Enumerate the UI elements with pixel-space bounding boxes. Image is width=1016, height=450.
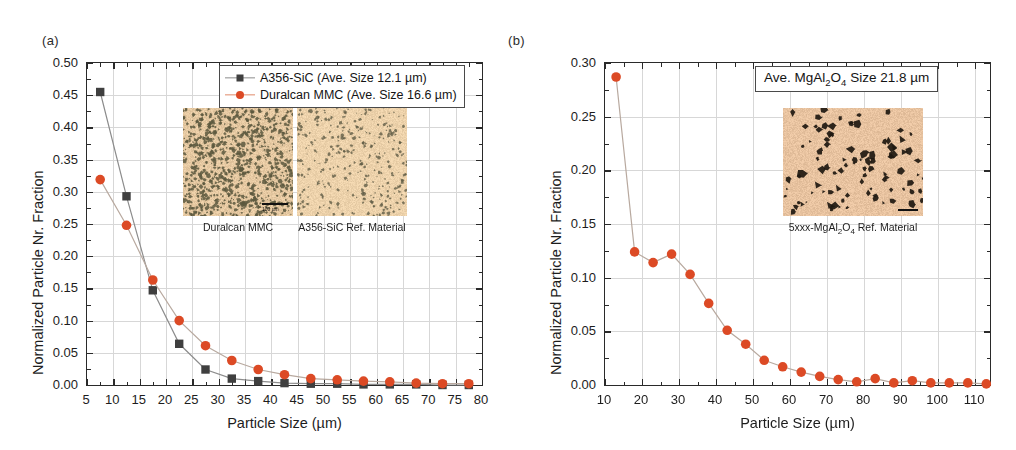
x-tick-label: 60 (782, 392, 796, 407)
x-tick-label: 10 (597, 392, 611, 407)
y-tick-label: 0.45 (34, 87, 78, 102)
data-point-circle[interactable] (982, 379, 992, 389)
data-point-square[interactable] (96, 88, 104, 96)
data-point-square[interactable] (201, 365, 209, 373)
data-point-circle[interactable] (889, 378, 899, 388)
data-point-square[interactable] (122, 192, 130, 200)
data-point-circle[interactable] (759, 356, 769, 366)
panel-a-label: (a) (42, 33, 59, 48)
data-point-circle[interactable] (385, 377, 395, 387)
data-point-square[interactable] (254, 377, 262, 385)
y-tick-label: 0.25 (34, 216, 78, 231)
x-tick-label: 5 (82, 392, 89, 407)
data-point-circle[interactable] (685, 270, 695, 280)
series-line (100, 92, 469, 385)
x-tick-label: 40 (708, 392, 722, 407)
y-tick-label: 0.10 (552, 269, 596, 284)
data-point-circle[interactable] (870, 374, 880, 384)
data-point-circle[interactable] (833, 375, 843, 385)
data-point-circle[interactable] (648, 258, 658, 268)
data-point-circle[interactable] (908, 376, 918, 386)
data-point-circle[interactable] (963, 378, 973, 388)
legend-row-duralcan[interactable]: Duralcan MMC (Ave. Size 16.6 µm) (225, 86, 457, 103)
y-tick-label: 0.50 (34, 55, 78, 70)
panel-a-legend: A356-SiC (Ave. Size 12.1 µm) Duralcan MM… (219, 65, 465, 108)
data-point-circle[interactable] (174, 316, 184, 326)
data-point-square[interactable] (280, 379, 288, 387)
data-point-circle[interactable] (464, 379, 474, 389)
x-tick-label: 75 (447, 392, 461, 407)
x-tick-label: 40 (263, 392, 277, 407)
panel-a-series-layer (87, 63, 484, 387)
data-point-circle[interactable] (148, 275, 158, 285)
legend-row-a356sic[interactable]: A356-SiC (Ave. Size 12.1 µm) (225, 69, 457, 86)
titlebox-post: Size 21.8 µm (846, 70, 929, 85)
data-point-circle[interactable] (253, 365, 263, 375)
x-tick-label: 110 (964, 392, 985, 407)
figure-root: (a) Normalized Particle Nr. Fraction 100… (0, 0, 1016, 450)
y-tick-label: 0.05 (552, 323, 596, 338)
data-point-circle[interactable] (201, 341, 211, 351)
panel-a-x-axis-title: Particle Size (µm) (86, 415, 483, 431)
data-point-circle[interactable] (926, 378, 936, 388)
legend-label-duralcan: Duralcan MMC (Ave. Size 16.6 µm) (260, 88, 457, 102)
data-point-circle[interactable] (778, 362, 788, 372)
legend-key-square (225, 72, 255, 84)
data-point-circle[interactable] (667, 249, 677, 259)
x-tick-label: 35 (237, 392, 251, 407)
data-point-circle[interactable] (741, 339, 751, 349)
y-tick-label: 0.15 (34, 280, 78, 295)
x-tick-label: 10 (105, 392, 119, 407)
panel-b-series-layer (605, 63, 992, 387)
data-point-circle[interactable] (796, 367, 806, 377)
data-point-circle[interactable] (306, 374, 316, 384)
titlebox-mid: O (831, 70, 842, 85)
y-tick-label: 0.35 (34, 151, 78, 166)
y-tick-label: 0.00 (552, 377, 596, 392)
data-point-circle[interactable] (359, 376, 369, 386)
data-point-square[interactable] (149, 286, 157, 294)
data-point-circle[interactable] (332, 375, 342, 385)
data-point-circle[interactable] (630, 247, 640, 257)
legend-label-a356sic: A356-SiC (Ave. Size 12.1 µm) (260, 71, 427, 85)
x-tick-label: 90 (893, 392, 907, 407)
x-tick-label: 80 (474, 392, 488, 407)
y-tick-label: 0.20 (552, 162, 596, 177)
x-tick-label: 45 (289, 392, 303, 407)
data-point-circle[interactable] (815, 372, 825, 382)
data-point-circle[interactable] (945, 378, 955, 388)
data-point-square[interactable] (228, 374, 236, 382)
x-tick-label: 30 (671, 392, 685, 407)
data-point-circle[interactable] (95, 175, 105, 185)
y-tick-label: 0.20 (34, 248, 78, 263)
x-tick-label: 20 (158, 392, 172, 407)
x-tick-label: 55 (342, 392, 356, 407)
data-point-circle[interactable] (122, 221, 132, 231)
data-point-circle[interactable] (704, 299, 714, 309)
panel-b-x-axis-title: Particle Size (µm) (604, 415, 991, 431)
panel-a: (a) Normalized Particle Nr. Fraction 100… (0, 0, 500, 450)
data-point-circle[interactable] (852, 377, 862, 387)
panel-b: (b) Normalized Particle Nr. Fraction 5xx… (500, 0, 1016, 450)
data-point-circle[interactable] (611, 72, 621, 82)
y-tick-label: 0.05 (34, 344, 78, 359)
series-line (616, 77, 986, 384)
data-point-circle[interactable] (280, 370, 290, 380)
x-tick-label: 50 (745, 392, 759, 407)
panel-b-label: (b) (508, 33, 525, 48)
panel-b-title-box: Ave. MgAl2O4 Size 21.8 µm (755, 66, 938, 92)
panel-b-plot-area: 5xxx-MgAl2O4 Ref. Material Ave. MgAl2O4 … (604, 62, 991, 386)
panel-a-plot-area: 100 µm Duralcan MMC A356-SiC Ref. Materi… (86, 62, 483, 386)
data-point-circle[interactable] (227, 356, 237, 366)
data-point-circle[interactable] (411, 378, 421, 388)
x-tick-label: 65 (395, 392, 409, 407)
legend-key-circle (225, 89, 255, 101)
data-point-circle[interactable] (438, 379, 448, 389)
data-point-square[interactable] (175, 340, 183, 348)
titlebox-pre: Ave. MgAl (764, 70, 825, 85)
data-point-circle[interactable] (722, 326, 732, 336)
x-tick-label: 70 (819, 392, 833, 407)
y-tick-label: 0.25 (552, 108, 596, 123)
x-tick-label: 80 (856, 392, 870, 407)
y-tick-label: 0.30 (552, 55, 596, 70)
